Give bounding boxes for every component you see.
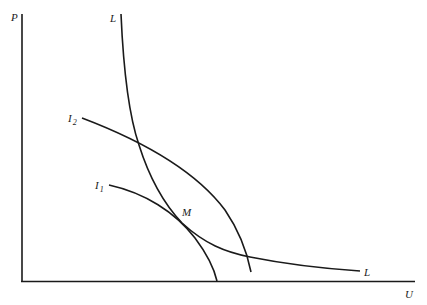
curve-L [121, 14, 360, 271]
diagram-canvas [0, 0, 427, 305]
point-M-label: M [182, 207, 191, 218]
curve-I1-label-subscript: 1 [100, 185, 104, 194]
curve-I2-label-main: I [68, 112, 72, 124]
curve-L-end-label: L [364, 267, 370, 278]
curve-I2-label-subscript: 2 [73, 118, 77, 127]
curve-I1-label-main: I [95, 179, 99, 191]
curve-L-top-label: L [110, 13, 116, 24]
curve-I2-label: I2 [68, 113, 77, 124]
curve-I2 [82, 118, 251, 272]
curve-I1-label: I1 [95, 180, 104, 191]
x-axis-label: U [405, 289, 413, 300]
y-axis-label: P [11, 12, 18, 23]
